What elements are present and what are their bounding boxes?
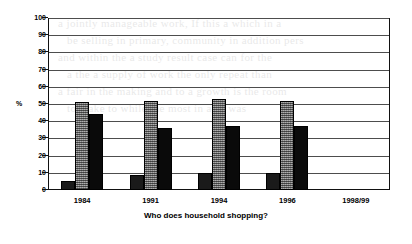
bar [266,173,280,190]
bar [158,128,172,190]
bar [212,99,226,190]
bar [61,181,75,190]
x-axis-tick-label: 1994 [211,196,228,205]
bar [89,114,103,190]
bar-group [185,18,253,190]
bar [130,175,144,190]
x-axis-title: Who does household shopping? [0,211,412,220]
x-axis-tick-label: 1996 [279,196,296,205]
bar [226,126,240,190]
bar [198,173,212,190]
bar-group [48,18,116,190]
bar [294,126,308,190]
bar-group [322,18,390,190]
bar-chart: 1009080706050%403020100 1984199119941996… [0,0,412,244]
x-axis-tick-label: 1998/99 [342,196,369,205]
bar [144,101,158,190]
y-axis-title: % [16,100,22,107]
x-axis-tick-label: 1991 [142,196,159,205]
bar-group [116,18,184,190]
bar [280,101,294,190]
bar [75,102,89,190]
x-axis-tick-label: 1984 [74,196,91,205]
bar-group [253,18,321,190]
